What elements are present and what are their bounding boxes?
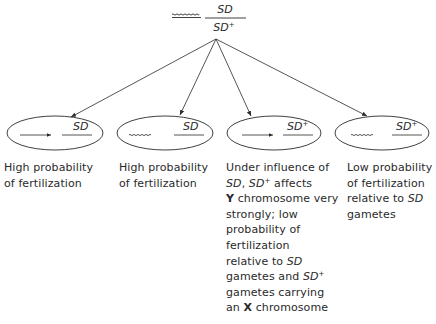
caption-line: SD, SD+ affects [226, 176, 338, 192]
caption-line: gametes and SD+ [226, 269, 338, 285]
arrow-to-gamete-2 [180, 39, 216, 115]
caption-line: fertilization [226, 238, 338, 254]
gamete-2: SD [117, 116, 213, 150]
caption-line: Low probability [347, 160, 432, 176]
gamete-label: SD [183, 120, 198, 133]
gamete-2-caption: High probabilityof fertilization [119, 160, 208, 191]
gamete-1: SD [7, 116, 103, 150]
gamete-label: SD+ [396, 120, 417, 133]
wavy-chromosome-icon [351, 134, 373, 135]
gamete-3: SD+ [227, 116, 321, 150]
caption-line: probability of [226, 222, 338, 238]
arrow-to-gamete-4 [216, 39, 367, 116]
caption-line: gametes carrying [226, 285, 338, 301]
gamete-label: SD [73, 120, 88, 133]
gamete-3-caption: Under influence ofSD, SD+ affectsY chrom… [226, 160, 338, 316]
parental-genotype: SD SD+ [172, 3, 246, 34]
caption-line: relative to SD [347, 191, 432, 207]
caption-line: High probability [119, 160, 208, 176]
gamete-label: SD+ [287, 120, 308, 133]
caption-line: of fertilization [119, 176, 208, 192]
genotype-denominator: SD+ [213, 21, 234, 34]
wavy-chromosome-icon [172, 14, 199, 15]
wavy-chromosome-icon [129, 134, 151, 135]
gamete-4: SD+ [335, 116, 429, 150]
arrow-to-gamete-1 [71, 39, 216, 117]
gamete-4-caption: Low probabilityof fertilizationrelative … [347, 160, 432, 222]
caption-line: Under influence of [226, 160, 338, 176]
caption-line: relative to SD [226, 254, 338, 270]
caption-line: Y chromosome very [226, 191, 338, 207]
caption-line: strongly; low [226, 207, 338, 223]
gamete-ellipse [7, 116, 103, 150]
caption-line: gametes [347, 207, 432, 223]
gamete-1-caption: High probabilityof fertilization [4, 160, 93, 191]
branch-arrows [71, 39, 367, 117]
gamete-ellipse [117, 116, 213, 150]
caption-line: an X chromosome [226, 300, 338, 316]
caption-line: High probability [4, 160, 93, 176]
arrow-to-gamete-3 [216, 39, 251, 116]
caption-line: of fertilization [4, 176, 93, 192]
genotype-numerator: SD [217, 3, 232, 16]
caption-line: of fertilization [347, 176, 432, 192]
